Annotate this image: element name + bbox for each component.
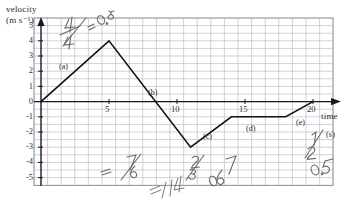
y-tick-label-3: 3	[20, 50, 33, 60]
segment-label-c: (c)	[203, 132, 212, 141]
x-axis-unit-label: (s)	[326, 130, 335, 139]
x-tick-label-20: 20	[307, 104, 316, 114]
x-tick-label-5: 5	[105, 104, 109, 114]
graph-canvas	[0, 0, 346, 206]
y-tick-label-5: 5	[20, 20, 33, 30]
y-tick-label-0: 0	[20, 96, 33, 106]
y-tick-label-2: 2	[20, 65, 33, 75]
x-tick-label-15: 15	[239, 104, 248, 114]
segment-label-b: (b)	[148, 88, 157, 97]
y-tick-label-neg5: -5	[16, 172, 33, 182]
segment-label-d: (d)	[246, 124, 255, 133]
y-tick-label-neg2: -2	[16, 126, 33, 136]
segment-label-e: (e)	[296, 118, 305, 127]
y-axis-title-line1: velocity	[6, 4, 37, 14]
y-tick-label-neg1: -1	[16, 111, 33, 121]
segment-label-a: (a)	[59, 62, 68, 71]
x-tick-label-10: 10	[171, 104, 180, 114]
x-axis-arrow	[331, 98, 341, 105]
y-tick-label-1: 1	[20, 81, 33, 91]
y-tick-label-4: 4	[20, 35, 33, 45]
y-tick-label-neg3: -3	[16, 141, 33, 151]
velocity-time-graph-figure: velocity (m s⁻¹) time (s) 5 4 3 2 1 0 -1…	[0, 0, 346, 206]
y-tick-label-neg4: -4	[16, 156, 33, 166]
x-axis-title: time	[321, 111, 338, 121]
